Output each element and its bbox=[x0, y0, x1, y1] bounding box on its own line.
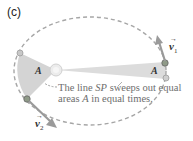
caption-text-part: sweeps out equal bbox=[107, 82, 181, 93]
velocity-subscript-2: 2 bbox=[40, 124, 44, 132]
caption-line-2: areas A in equal times. bbox=[58, 93, 188, 104]
planet-icon-left-top bbox=[17, 50, 23, 56]
vector-arrow-icon: → bbox=[170, 35, 177, 43]
area-label-right: A bbox=[151, 65, 158, 76]
kepler-second-law-diagram bbox=[0, 0, 193, 141]
caption-text-part: in equal times. bbox=[89, 93, 153, 104]
velocity-label-1: →v1 bbox=[169, 40, 177, 55]
velocity-label-2: →v2 bbox=[35, 117, 43, 132]
planet-icon-right-bottom bbox=[163, 75, 169, 81]
sun-core bbox=[53, 67, 59, 73]
caption-text-part: areas bbox=[58, 93, 82, 104]
caption-text: The line SP sweeps out equal areas A in … bbox=[58, 82, 188, 104]
caption-line-1: The line SP sweeps out equal bbox=[58, 82, 188, 93]
area-label-left: A bbox=[35, 65, 42, 76]
area-wedge-right bbox=[56, 62, 166, 79]
velocity-arrow-1-icon bbox=[155, 35, 165, 61]
caption-symbol-sp: SP bbox=[95, 82, 107, 93]
velocity-subscript-1: 1 bbox=[174, 47, 178, 55]
caption-text-part: The line bbox=[58, 82, 95, 93]
area-wedge-left bbox=[17, 53, 56, 99]
vector-arrow-icon: → bbox=[36, 112, 43, 120]
panel-label: (c) bbox=[7, 5, 21, 19]
caption-leader-line bbox=[44, 83, 57, 87]
